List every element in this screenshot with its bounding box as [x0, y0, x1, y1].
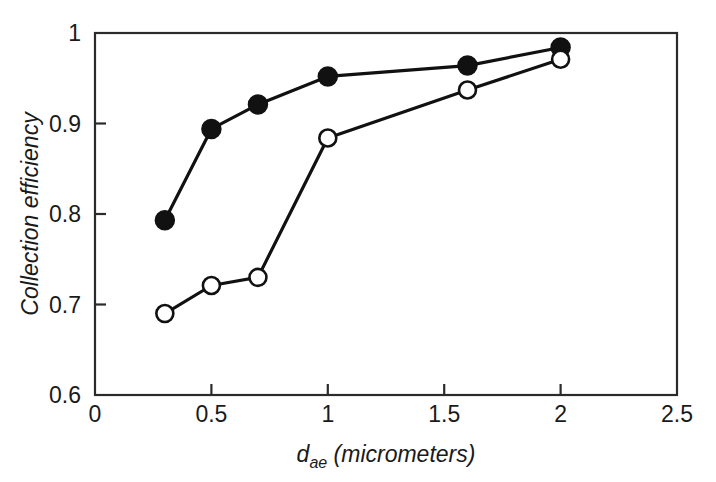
data-point-filled — [458, 56, 477, 75]
plot-frame — [95, 33, 677, 395]
data-point-open — [249, 269, 266, 286]
y-tick-label: 0.8 — [49, 201, 81, 227]
x-tick-label: 0 — [89, 401, 102, 427]
data-point-open — [459, 82, 476, 99]
data-point-filled — [248, 95, 267, 114]
data-point-filled — [202, 119, 221, 138]
y-axis-tick-labels: 0.60.70.80.91 — [49, 20, 81, 408]
x-axis-title: dae (micrometers) — [297, 441, 476, 471]
chart-figure: 0.60.70.80.91 00.511.522.5 Collection ef… — [0, 0, 716, 482]
y-tick-label: 1 — [68, 20, 81, 46]
y-axis-title: Collection efficiency — [17, 111, 43, 316]
x-axis-title-text: dae (micrometers) — [297, 441, 476, 471]
series-group — [155, 38, 570, 322]
series-line-open-circles — [165, 59, 561, 313]
series-open-circles — [156, 51, 569, 322]
x-axis-tick-labels: 00.511.522.5 — [89, 401, 693, 427]
y-axis-title-text: Collection efficiency — [17, 111, 43, 316]
series-line-filled-circles — [165, 47, 561, 220]
y-axis-ticks — [95, 124, 106, 305]
x-tick-label: 0.5 — [195, 401, 227, 427]
data-point-open — [552, 51, 569, 68]
data-point-filled — [318, 67, 337, 86]
x-tick-label: 1.5 — [428, 401, 460, 427]
x-tick-label: 1 — [321, 401, 334, 427]
data-point-open — [319, 129, 336, 146]
x-tick-label: 2.5 — [661, 401, 693, 427]
data-point-filled — [155, 211, 174, 230]
x-axis-ticks — [211, 384, 560, 395]
chart-canvas: 0.60.70.80.91 00.511.522.5 Collection ef… — [0, 0, 716, 482]
data-point-open — [156, 305, 173, 322]
y-tick-label: 0.9 — [49, 111, 81, 137]
y-tick-label: 0.7 — [49, 292, 81, 318]
x-tick-label: 2 — [554, 401, 567, 427]
x-axis-title-units: (micrometers) — [327, 441, 475, 467]
y-tick-label: 0.6 — [49, 382, 81, 408]
series-filled-circles — [155, 38, 570, 230]
plot-frame-box — [95, 33, 677, 395]
data-point-open — [203, 277, 220, 294]
x-axis-title-subscript: ae — [309, 454, 327, 471]
